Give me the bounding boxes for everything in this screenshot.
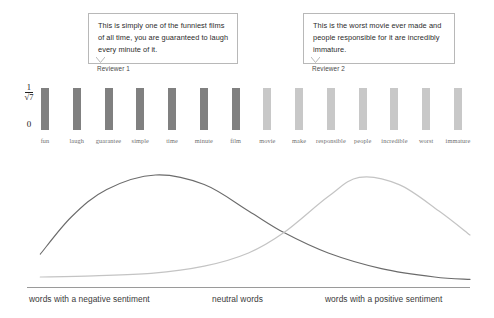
bar-label-immature: immature: [428, 137, 488, 144]
bar-minute: [200, 88, 208, 130]
positive-sentiment-curve: [40, 177, 470, 277]
bar-movie: [263, 88, 271, 130]
footer-label-negative: words with a negative sentiment: [29, 294, 150, 304]
bar-time: [168, 88, 176, 130]
bar-fun: [41, 88, 49, 130]
bar-chart: funlaughguaranteesimpletimeminutefilmmov…: [0, 0, 494, 160]
bar-make: [295, 88, 303, 130]
bar-film: [232, 88, 240, 130]
footer-axis-line: [27, 287, 470, 288]
bar-worst: [422, 88, 430, 130]
sentiment-distribution-curves: [0, 155, 494, 290]
bar-simple: [136, 88, 144, 130]
bar-incredible: [390, 88, 398, 130]
negative-sentiment-curve: [40, 175, 470, 279]
bar-guarantee: [105, 88, 113, 130]
footer-label-neutral: neutral words: [212, 294, 263, 304]
bar-laugh: [73, 88, 81, 130]
sentiment-figure: This is simply one of the funniest films…: [0, 0, 494, 318]
bar-people: [359, 88, 367, 130]
footer-label-positive: words with a positive sentiment: [325, 294, 442, 304]
bar-immature: [454, 88, 462, 130]
bar-responsible: [327, 88, 335, 130]
